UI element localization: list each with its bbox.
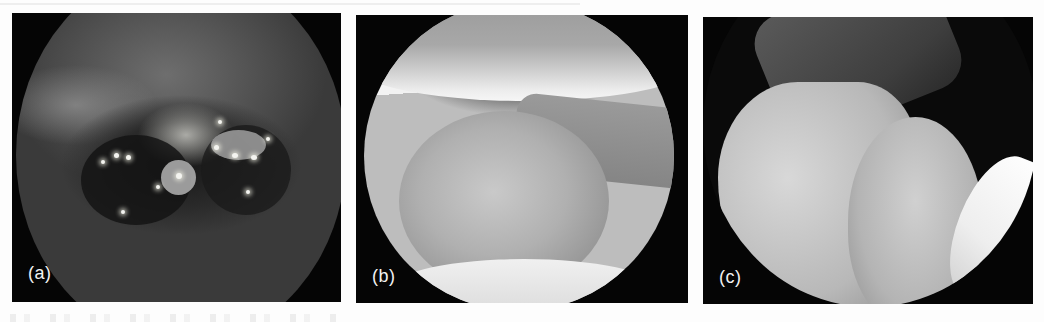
scope-view-a [16,13,341,302]
specular-highlight [156,185,160,189]
scope-view-c [703,17,1033,304]
figure-panel-c: (c) [703,17,1033,304]
specular-highlight [121,210,125,214]
specular-highlight [214,145,219,150]
specular-highlight [126,155,131,160]
scope-view-b [364,15,674,303]
specular-highlight [251,155,257,160]
figure-panel-b: (b) [356,15,688,303]
panel-label-a: (a) [28,263,52,284]
lesion-bright-right [211,130,266,160]
specular-highlight [176,173,182,179]
panel-label-c: (c) [719,267,742,288]
cropped-caption-text [10,314,340,322]
specular-highlight [266,137,270,141]
specular-highlight [114,153,119,158]
upper-surface [364,15,674,101]
specular-highlight [101,160,105,164]
top-rule [0,3,580,5]
specular-highlight [246,190,250,194]
specular-highlight [232,153,238,158]
panel-label-b: (b) [372,266,396,287]
specular-highlight [218,120,222,124]
figure-panel-a: (a) [12,13,341,302]
